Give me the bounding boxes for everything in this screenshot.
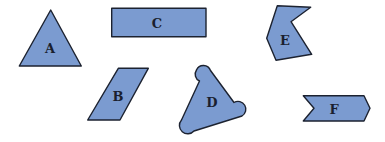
- shape-b-label: B: [113, 89, 124, 104]
- shape-c: C: [112, 8, 206, 36]
- shape-a: A: [19, 10, 81, 66]
- shape-c-label: C: [152, 16, 162, 31]
- shape-a-label: A: [44, 41, 56, 56]
- shape-f-label: F: [329, 102, 339, 117]
- shape-f: F: [303, 96, 370, 121]
- triangle-shape: [19, 10, 81, 66]
- shape-b: B: [88, 68, 149, 120]
- shape-d: D: [179, 65, 245, 133]
- shape-e: E: [267, 6, 312, 61]
- shape-d-label: D: [206, 95, 217, 110]
- shapes-diagram: A C E B D F: [0, 0, 385, 142]
- shape-e-label: E: [280, 33, 290, 48]
